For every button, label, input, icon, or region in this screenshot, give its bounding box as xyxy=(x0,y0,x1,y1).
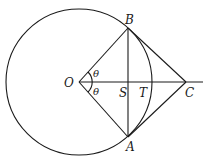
label-T: T xyxy=(139,86,148,100)
geometry-diagram: O B A C S T θ θ xyxy=(0,0,205,164)
label-B: B xyxy=(124,13,134,27)
label-A: A xyxy=(125,140,135,154)
tangent-BC xyxy=(128,28,186,82)
line-OB xyxy=(79,28,128,82)
tangent-AC xyxy=(128,82,186,137)
label-C: C xyxy=(185,86,194,100)
label-O: O xyxy=(64,76,74,90)
theta-upper: θ xyxy=(93,68,99,79)
theta-lower: θ xyxy=(93,86,99,97)
label-S: S xyxy=(119,86,127,100)
